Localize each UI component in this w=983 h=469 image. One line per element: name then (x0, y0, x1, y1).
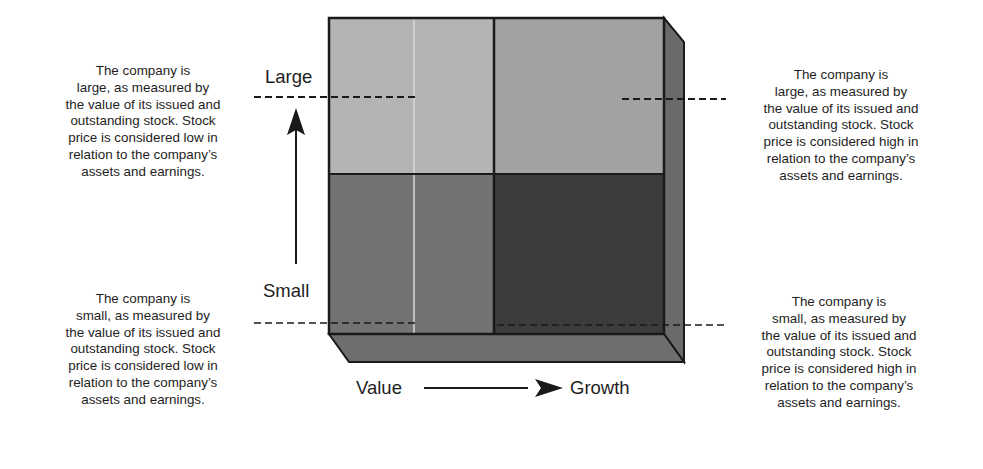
quadrant-small-value (329, 174, 494, 334)
axis-label-growth: Growth (570, 377, 630, 399)
box-side-face (664, 18, 684, 362)
description-small-value: The company is small, as measured by the… (30, 291, 256, 409)
description-large-value: The company is large, as measured by the… (30, 63, 256, 181)
axis-label-value: Value (356, 377, 402, 399)
description-large-growth: The company is large, as measured by the… (728, 67, 954, 185)
box-bottom-face (329, 334, 684, 362)
quadrant-large-growth (494, 18, 664, 174)
axis-label-large: Large (265, 66, 312, 88)
style-axis-arrowhead-icon (535, 379, 563, 397)
axis-label-small: Small (263, 280, 309, 302)
description-small-growth: The company is small, as measured by the… (726, 294, 952, 412)
quadrant-small-growth (494, 174, 664, 334)
